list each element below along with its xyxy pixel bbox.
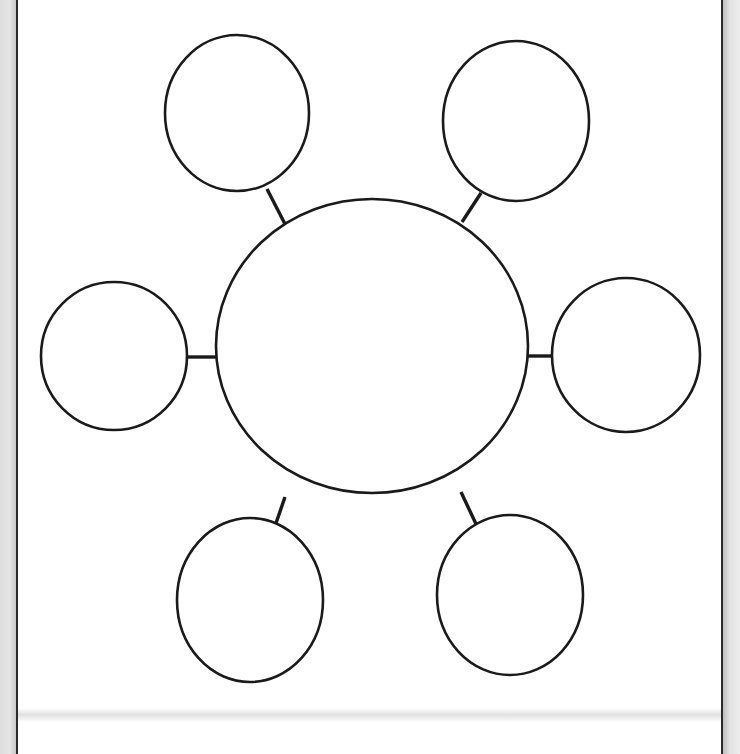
connector-top-right — [462, 193, 481, 222]
bubble-bottom-left — [177, 518, 323, 682]
center-bubble — [216, 199, 528, 493]
worksheet-page — [0, 0, 740, 754]
connector-top-left — [267, 189, 285, 224]
bubble-map-diagram — [0, 0, 740, 754]
bubble-left — [41, 282, 187, 430]
connector-bottom-right — [461, 492, 476, 524]
bubble-right — [552, 278, 700, 432]
bubble-top-right — [443, 41, 589, 201]
bubble-top-left — [165, 35, 309, 191]
bubble-bottom-right — [437, 515, 583, 675]
